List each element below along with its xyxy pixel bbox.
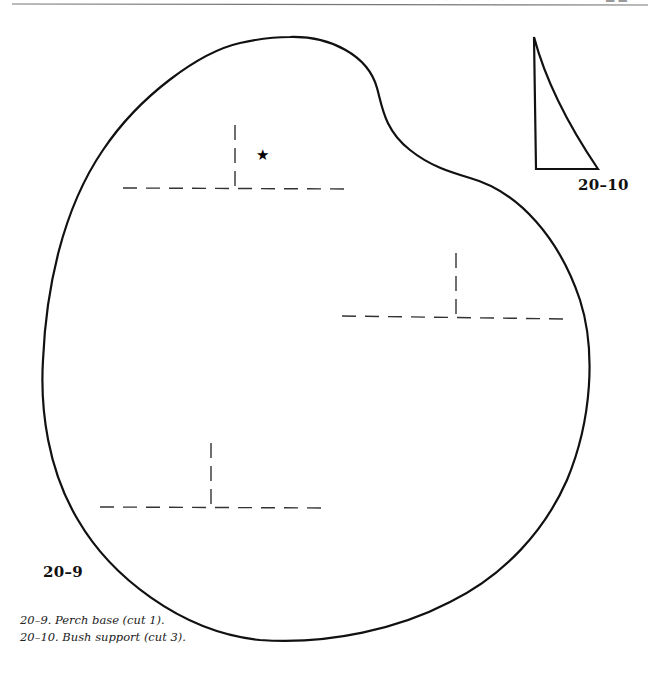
placement-guide-2 (342, 253, 568, 319)
perch-base-outline (42, 37, 589, 641)
placement-guide-1 (123, 125, 348, 189)
caption-bush-support: 20–10. Bush support (cut 3). (20, 630, 186, 644)
pattern-page: • • • • • • • ▬▬ ★ 20–10 20–9 20–9. Perc… (0, 0, 652, 675)
placement-guide-3 (100, 443, 326, 508)
figure-label-perch-base: 20–9 (43, 563, 83, 581)
pattern-drawing (0, 0, 652, 675)
header-rule (12, 4, 648, 5)
bush-support-outline (534, 37, 598, 169)
star-icon: ★ (256, 148, 269, 163)
caption-perch-base: 20–9. Perch base (cut 1). (20, 613, 165, 627)
header-fragment-left: • • • • • • • (415, 0, 507, 6)
header-fragment-right: ▬▬ (605, 0, 630, 6)
figure-label-bush-support: 20–10 (578, 176, 629, 194)
